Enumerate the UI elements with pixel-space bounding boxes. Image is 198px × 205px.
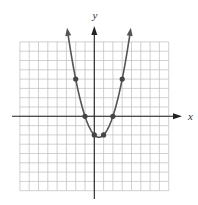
y-axis-arrow-icon [91, 26, 97, 35]
curve-left-arrow-icon [65, 28, 71, 36]
data-point [120, 77, 125, 82]
x-axis-label: x [187, 110, 193, 122]
curve-arrow-heads [65, 28, 132, 36]
data-point [73, 77, 78, 82]
data-point [92, 132, 97, 137]
parabola-curve [68, 32, 131, 138]
axes [12, 26, 182, 199]
curve-right-arrow-icon [127, 28, 133, 36]
data-point [101, 132, 106, 137]
function-graph: x y [0, 0, 198, 205]
y-axis-label: y [92, 9, 98, 21]
data-point [82, 114, 87, 119]
x-axis-arrow-icon [173, 113, 182, 119]
data-point [110, 114, 115, 119]
